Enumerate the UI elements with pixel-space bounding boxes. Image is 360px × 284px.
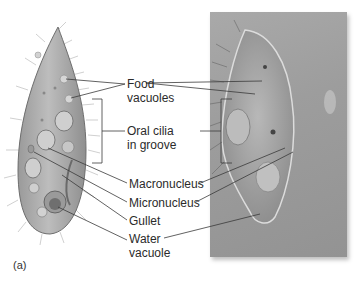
label-water-vacuole: Water vacuole — [129, 232, 170, 260]
label-food-vacuoles: Food vacuoles — [127, 77, 174, 105]
label-water-line2: vacuole — [129, 246, 170, 260]
label-gullet: Gullet — [129, 214, 160, 228]
label-food-line1: Food — [127, 77, 174, 91]
label-oral-line1: Oral cilia — [127, 124, 176, 138]
paramecium-drawing — [0, 0, 360, 284]
label-macronucleus: Macronucleus — [129, 177, 204, 191]
figure: Food vacuoles Oral cilia in groove Macro… — [0, 0, 360, 284]
label-oral-line2: in groove — [127, 138, 176, 152]
panel-label: (a) — [13, 259, 26, 271]
label-micronucleus: Micronucleus — [129, 196, 200, 210]
label-oral-cilia: Oral cilia in groove — [127, 124, 176, 152]
label-water-line1: Water — [129, 232, 170, 246]
label-food-line2: vacuoles — [127, 91, 174, 105]
